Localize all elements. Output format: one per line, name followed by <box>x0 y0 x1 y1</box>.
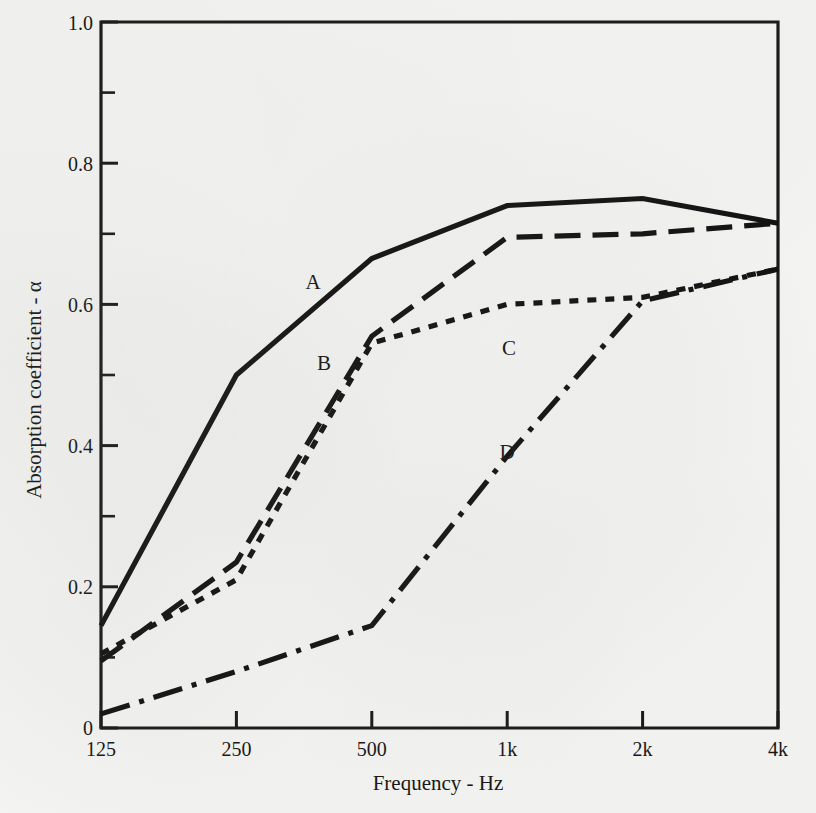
y-axis-title: Absorption coefficient - α <box>22 281 46 499</box>
series-label-a: A <box>305 270 321 294</box>
y-axis-tick-labels: 0 0.2 0.4 0.6 0.8 1.0 <box>68 12 93 739</box>
plot-frame <box>101 22 778 728</box>
x-tick-label-1k: 1k <box>497 738 517 760</box>
series-label-b: B <box>317 351 331 375</box>
x-tick-label-4k: 4k <box>768 738 788 760</box>
series-line-a <box>101 199 778 626</box>
y-tick-label-0: 0 <box>83 717 93 739</box>
x-axis-tick-labels: 125 250 500 1k 2k 4k <box>86 738 788 760</box>
series-label-c: C <box>502 336 516 360</box>
x-tick-label-125: 125 <box>86 738 116 760</box>
y-tick-label-5: 1.0 <box>68 12 93 34</box>
x-tick-label-2k: 2k <box>633 738 653 760</box>
x-axis-title: Frequency - Hz <box>373 771 504 795</box>
x-tick-label-500: 500 <box>357 738 387 760</box>
y-tick-label-4: 0.8 <box>68 153 93 175</box>
absorption-coefficient-chart: 0 0.2 0.4 0.6 0.8 1.0 125 250 500 1k 2k … <box>0 0 816 813</box>
series-line-d <box>101 269 778 714</box>
x-tick-label-250: 250 <box>221 738 251 760</box>
x-axis-ticks <box>101 711 778 728</box>
series-line-c <box>101 269 778 654</box>
y-tick-label-2: 0.4 <box>68 435 93 457</box>
chart-page: 0 0.2 0.4 0.6 0.8 1.0 125 250 500 1k 2k … <box>0 0 816 813</box>
curve-labels: ABCD <box>305 270 516 464</box>
data-curves <box>101 199 778 714</box>
series-label-d: D <box>499 440 514 464</box>
y-tick-label-3: 0.6 <box>68 294 93 316</box>
y-tick-label-1: 0.2 <box>68 576 93 598</box>
